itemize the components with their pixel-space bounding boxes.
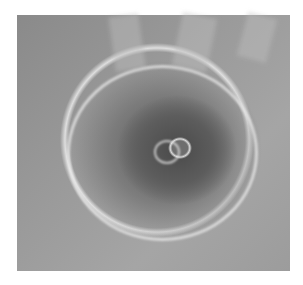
aureole-streak xyxy=(237,12,278,63)
aureole-streak xyxy=(172,12,218,73)
summit-caldera xyxy=(154,140,180,164)
olympus-mons-photo xyxy=(17,15,290,271)
aureole-streak xyxy=(108,13,145,72)
